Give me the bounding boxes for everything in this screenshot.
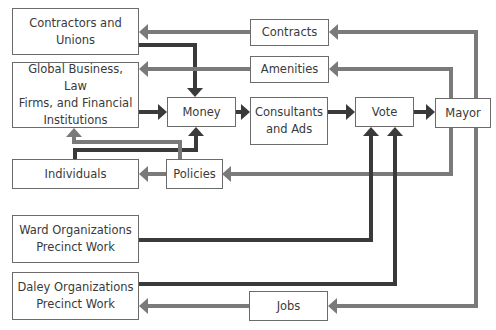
edge-mayor-to-amenities [338,69,451,98]
arrowhead-icon [139,61,148,77]
node-vote: Vote [355,97,414,127]
node-consultants-label: Consultants and Ads [255,104,323,138]
node-mayor: Mayor [435,98,491,128]
arrowhead-icon [139,166,148,182]
node-money-label: Money [182,104,220,121]
arrowhead-icon [158,104,167,120]
node-amenities: Amenities [250,56,329,83]
node-policies: Policies [166,159,223,189]
arrowhead-icon [329,24,338,40]
arrowhead-icon [139,24,148,40]
node-daley-organizations: Daley Organizations Precinct Work [12,272,139,320]
arrowhead-icon [387,127,403,136]
node-policies-label: Policies [173,166,216,183]
arrowhead-icon [329,61,338,77]
edge-individuals-to-money [75,136,196,159]
node-ward-organizations-label: Ward Organizations Precinct Work [19,222,132,256]
node-jobs: Jobs [249,291,328,321]
arrowhead-icon [188,127,204,136]
node-ward-organizations: Ward Organizations Precinct Work [12,215,139,263]
node-contractors-label: Contractors and Unions [29,15,122,49]
arrowhead-icon [241,104,250,120]
node-daley-organizations-label: Daley Organizations Precinct Work [17,279,133,313]
node-global-business: Global Business, Law Firms, and Financia… [12,62,139,128]
node-individuals: Individuals [12,159,139,189]
arrowhead-icon [187,88,203,97]
edge-mayor-to-jobs [337,128,476,306]
arrowhead-icon [328,298,337,314]
node-individuals-label: Individuals [45,166,107,183]
arrowhead-icon [139,298,148,314]
node-jobs-label: Jobs [277,298,301,315]
node-contracts: Contracts [250,19,329,46]
node-mayor-label: Mayor [445,105,481,122]
arrowhead-icon [426,104,435,120]
node-money: Money [167,97,236,127]
node-global-business-label: Global Business, Law Firms, and Financia… [17,61,134,129]
arrowhead-icon [222,166,231,182]
node-vote-label: Vote [372,104,398,121]
node-amenities-label: Amenities [261,61,318,78]
node-consultants: Consultants and Ads [250,97,328,145]
node-contractors: Contractors and Unions [12,8,139,55]
arrowhead-icon [363,127,379,136]
arrowhead-icon [346,104,355,120]
arrowhead-icon [66,128,82,137]
node-contracts-label: Contracts [262,24,317,41]
edge-mayor-to-contracts [338,32,476,98]
